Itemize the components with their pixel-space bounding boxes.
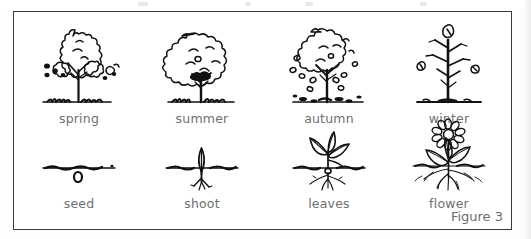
figure-grid: spring — [14, 12, 511, 229]
figure-cell-label-leaves: leaves — [268, 198, 390, 211]
figure-cell-label-seed: seed — [18, 198, 140, 211]
figure-cell-autumn: autumn — [268, 18, 390, 126]
figure-cell-label-autumn: autumn — [268, 113, 390, 126]
figure-cell-label-shoot: shoot — [141, 198, 263, 211]
tree-sparse-blossom-icon — [18, 18, 140, 113]
figure-cell-shoot: shoot — [141, 138, 263, 211]
tree-falling-leaves-icon — [268, 18, 390, 113]
figure-border-box: spring — [13, 11, 512, 230]
figure-cell-winter: winter — [388, 18, 510, 126]
figure-page: spring — [0, 0, 531, 239]
scan-noise — [0, 0, 531, 10]
tree-bare-branches-icon — [388, 18, 510, 113]
figure-cell-label-spring: spring — [18, 113, 140, 126]
figure-cell-leaves: leaves — [268, 130, 390, 211]
page-gutter-shadow — [523, 0, 531, 239]
figure-cell-seed: seed — [18, 138, 140, 211]
seedling-with-leaves-icon — [268, 130, 390, 198]
shoot-with-roots-icon — [141, 138, 263, 198]
figure-cell-label-summer: summer — [141, 113, 263, 126]
figure-cell-summer: summer — [141, 18, 263, 126]
figure-cell-spring: spring — [18, 18, 140, 126]
flowering-plant-icon — [388, 122, 510, 198]
tree-full-canopy-icon — [141, 18, 263, 113]
figure-cell-flower: flower — [388, 122, 510, 211]
figure-caption: Figure 3 — [451, 209, 503, 224]
seed-in-soil-icon — [18, 138, 140, 198]
